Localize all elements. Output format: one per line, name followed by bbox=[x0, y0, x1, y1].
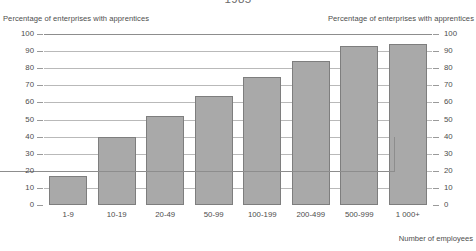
x-axis-category-label: 100-199 bbox=[238, 211, 287, 219]
bar-500-999 bbox=[340, 46, 378, 205]
y-axis-tick-label-right: 100 bbox=[444, 30, 474, 38]
y-axis-tick bbox=[433, 85, 439, 86]
y-axis-tick-label-right: 60 bbox=[444, 98, 474, 106]
y-axis-tick-label-left: 50 bbox=[4, 116, 34, 124]
y-axis-tick-label-left: 30 bbox=[4, 150, 34, 158]
y-axis-caption-left: Percentage of enterprises with apprentic… bbox=[3, 14, 149, 23]
bar-1000plus bbox=[389, 44, 427, 205]
y-axis-tick-label-right: 30 bbox=[444, 150, 474, 158]
y-axis-tick bbox=[37, 137, 43, 138]
y-axis-tick-label-right: 20 bbox=[444, 167, 474, 175]
y-axis-tick-label-right: 10 bbox=[444, 184, 474, 192]
bar-200-499 bbox=[292, 61, 330, 205]
y-axis-tick-label-right: 80 bbox=[444, 64, 474, 72]
x-axis-caption: Number of employees bbox=[399, 234, 473, 243]
y-axis-tick bbox=[37, 51, 43, 52]
y-axis-tick bbox=[37, 85, 43, 86]
y-axis-tick bbox=[37, 34, 43, 35]
x-axis-category-label: 1 000+ bbox=[384, 211, 433, 219]
bar-20-49 bbox=[146, 116, 184, 205]
y-axis-tick bbox=[433, 188, 439, 189]
y-axis-tick bbox=[433, 205, 439, 206]
chart-title: 1985 bbox=[0, 0, 476, 5]
plot-area bbox=[44, 34, 432, 205]
x-axis-category-label: 500-999 bbox=[335, 211, 384, 219]
y-axis-tick bbox=[433, 154, 439, 155]
x-axis-category-label: 10-19 bbox=[93, 211, 142, 219]
y-axis-tick-label-left: 10 bbox=[4, 184, 34, 192]
y-axis-tick-label-left: 0 bbox=[4, 201, 34, 209]
bar-1-9 bbox=[49, 176, 87, 205]
y-axis-tick-label-left: 90 bbox=[4, 47, 34, 55]
y-axis-tick-label-right: 0 bbox=[444, 201, 474, 209]
y-axis-tick bbox=[37, 102, 43, 103]
y-axis-tick-label-left: 40 bbox=[4, 133, 34, 141]
y-axis-tick-label-left: 70 bbox=[4, 81, 34, 89]
y-axis-tick-label-left: 80 bbox=[4, 64, 34, 72]
y-axis-tick bbox=[433, 137, 439, 138]
y-axis-tick-label-right: 40 bbox=[444, 133, 474, 141]
y-axis-stub-right bbox=[394, 137, 395, 172]
y-axis-tick bbox=[37, 68, 43, 69]
y-axis-tick bbox=[433, 120, 439, 121]
y-axis-tick bbox=[37, 120, 43, 121]
y-axis-tick bbox=[433, 34, 439, 35]
bar-100-199 bbox=[243, 77, 281, 205]
x-axis-baseline bbox=[0, 171, 395, 172]
y-axis-tick-label-right: 70 bbox=[444, 81, 474, 89]
y-axis-tick bbox=[37, 154, 43, 155]
x-axis-category-label: 1-9 bbox=[44, 211, 93, 219]
y-axis-tick bbox=[433, 171, 439, 172]
y-axis-tick bbox=[433, 68, 439, 69]
y-axis-tick-label-right: 50 bbox=[444, 116, 474, 124]
y-axis-tick-label-left: 100 bbox=[4, 30, 34, 38]
x-axis-category-label: 20-49 bbox=[141, 211, 190, 219]
x-axis-category-label: 50-99 bbox=[190, 211, 239, 219]
bar-50-99 bbox=[195, 96, 233, 205]
y-axis-tick bbox=[37, 205, 43, 206]
y-axis-tick bbox=[37, 188, 43, 189]
y-axis-tick bbox=[433, 51, 439, 52]
y-axis-tick-label-left: 60 bbox=[4, 98, 34, 106]
y-axis-tick-label-right: 90 bbox=[444, 47, 474, 55]
y-axis-tick-label-left: 20 bbox=[4, 167, 34, 175]
x-axis-category-label: 200-499 bbox=[287, 211, 336, 219]
gridline bbox=[44, 34, 432, 35]
y-axis-tick bbox=[433, 102, 439, 103]
y-axis-caption-right: Percentage of enterprises with apprentic… bbox=[328, 14, 474, 23]
